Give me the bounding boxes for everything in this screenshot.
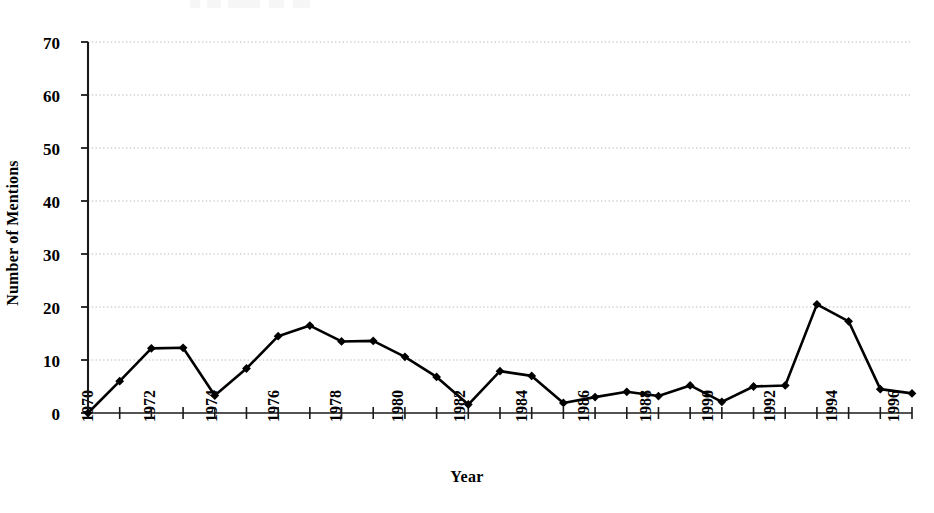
data-point	[369, 337, 378, 346]
data-point	[337, 337, 346, 346]
chart-container: Number of Mentions Year 70 60 50 40 30 2…	[0, 0, 934, 513]
data-point	[749, 382, 758, 391]
data-point	[686, 381, 695, 390]
data-point	[654, 392, 663, 401]
plot-area	[0, 0, 934, 513]
data-point	[717, 397, 726, 406]
data-point	[876, 385, 885, 394]
gridlines	[88, 42, 910, 360]
data-point	[781, 381, 790, 390]
data-point	[908, 389, 917, 398]
data-point	[622, 387, 631, 396]
data-markers	[84, 300, 917, 417]
data-point	[591, 393, 600, 402]
axis-lines	[88, 42, 912, 413]
data-point	[305, 321, 314, 330]
